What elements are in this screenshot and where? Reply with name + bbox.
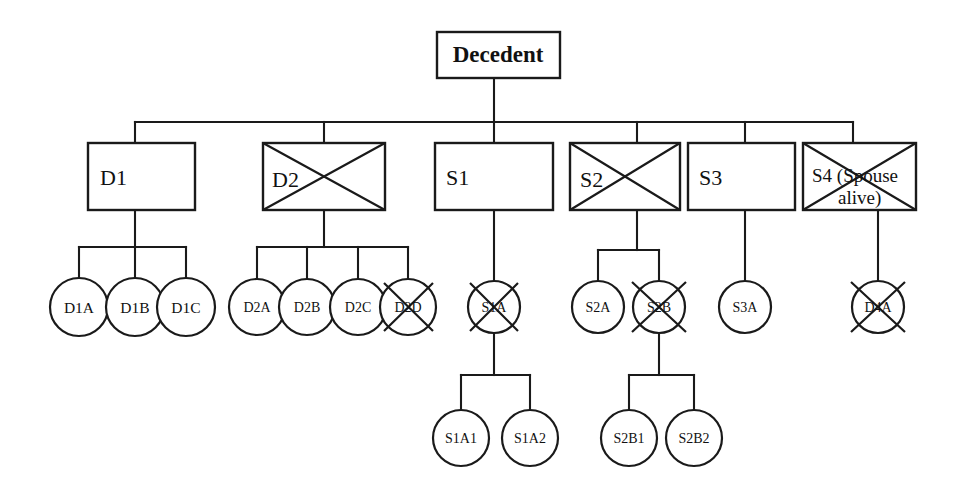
node-s2b1[interactable]: S2B1 (601, 410, 657, 466)
node-d1b[interactable]: D1B (106, 278, 164, 336)
node-d1[interactable]: D1 (88, 143, 195, 210)
node-d1c[interactable]: D1C (157, 278, 215, 336)
s3a-label: S3A (733, 300, 759, 315)
d4a-label: D4A (864, 300, 892, 315)
d1-label: D1 (100, 165, 127, 190)
s1a1-label: S1A1 (445, 431, 477, 446)
d2-label: D2 (272, 167, 299, 192)
s2b2-label: S2B2 (678, 431, 709, 446)
decedent-label: Decedent (453, 42, 544, 67)
family-tree-canvas: Decedent D1 D2 S1 S2 S3 S4 (Spousealive)… (0, 0, 977, 490)
s1a2-label: S1A2 (514, 431, 546, 446)
node-s2[interactable]: S2 (570, 143, 680, 210)
node-s1[interactable]: S1 (435, 143, 553, 210)
node-d1a[interactable]: D1A (50, 278, 108, 336)
edge-layer (79, 78, 878, 410)
d1c-label: D1C (171, 299, 200, 316)
node-s2b2[interactable]: S2B2 (666, 410, 722, 466)
node-s3a[interactable]: S3A (719, 281, 771, 333)
node-s1a[interactable]: S1A (468, 281, 520, 333)
s1a-label: S1A (482, 300, 508, 315)
node-d2a[interactable]: D2A (229, 279, 285, 335)
s1-label: S1 (446, 165, 469, 190)
d1b-label: D1B (120, 299, 149, 316)
d2c-label: D2C (345, 300, 371, 315)
node-decedent[interactable]: Decedent (437, 32, 560, 78)
node-s2a[interactable]: S2A (572, 281, 624, 333)
d1a-label: D1A (64, 299, 95, 316)
node-d2b[interactable]: D2B (279, 279, 335, 335)
s3-label: S3 (699, 165, 722, 190)
d2d-label: D2D (394, 300, 421, 315)
d2b-label: D2B (294, 300, 320, 315)
s2b-label: S2B (647, 300, 671, 315)
node-s4[interactable]: S4 (Spousealive) (803, 143, 916, 210)
s2a-label: S2A (586, 300, 612, 315)
d2a-label: D2A (243, 300, 271, 315)
node-d2d[interactable]: D2D (380, 279, 436, 335)
node-d4a[interactable]: D4A (851, 281, 905, 333)
node-s1a2[interactable]: S1A2 (502, 410, 558, 466)
s2-label: S2 (580, 167, 603, 192)
node-s2b[interactable]: S2B (632, 281, 686, 333)
node-d2c[interactable]: D2C (330, 279, 386, 335)
s2b1-label: S2B1 (613, 431, 644, 446)
node-s1a1[interactable]: S1A1 (433, 410, 489, 466)
family-tree-diagram: Decedent D1 D2 S1 S2 S3 S4 (Spousealive)… (0, 0, 977, 490)
node-d2[interactable]: D2 (263, 143, 385, 210)
node-s3[interactable]: S3 (688, 143, 795, 210)
